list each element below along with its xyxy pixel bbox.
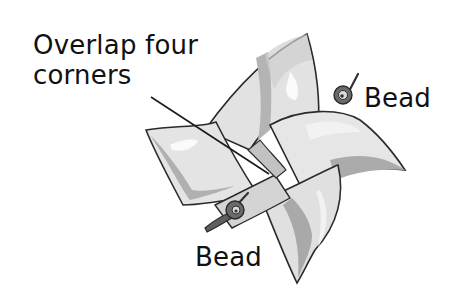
bead-right-icon	[334, 74, 358, 104]
pinwheel-diagram: Overlap four corners Bead Bead	[0, 0, 462, 294]
overlap-corners-label: Overlap four corners	[33, 30, 198, 90]
overlap-corners-line-1: Overlap four	[33, 30, 198, 60]
bead-right-label: Bead	[364, 83, 431, 113]
bead-bottom-label: Bead	[195, 242, 262, 272]
overlap-corners-line-2: corners	[33, 60, 198, 90]
